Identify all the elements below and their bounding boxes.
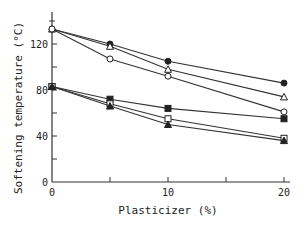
open-circle-marker (281, 109, 287, 115)
open-triangle-marker (165, 66, 172, 73)
series-line-filled-square (52, 87, 284, 119)
series-group (49, 26, 288, 144)
filled-square-marker (281, 116, 287, 122)
filled-square-marker (165, 105, 171, 111)
y-axis-label: Softening temperature (°C) (12, 22, 25, 194)
filled-circle-marker (281, 80, 287, 86)
open-circle-marker (107, 56, 113, 62)
open-circle-marker (49, 26, 55, 32)
axes: 0408012001020 (30, 12, 290, 198)
y-tick-label: 80 (36, 85, 48, 96)
x-tick-label: 10 (162, 187, 174, 198)
filled-circle-marker (165, 58, 171, 64)
x-axis-label: Plasticizer (%) (118, 204, 217, 217)
open-circle-marker (165, 73, 171, 79)
y-tick-label: 40 (36, 131, 48, 142)
x-tick-label: 20 (278, 187, 290, 198)
x-tick-label: 0 (49, 187, 55, 198)
y-tick-label: 0 (42, 177, 48, 188)
softening-temperature-chart: 0408012001020 Plasticizer (%) Softening … (0, 0, 307, 227)
y-tick-label: 120 (30, 39, 48, 50)
